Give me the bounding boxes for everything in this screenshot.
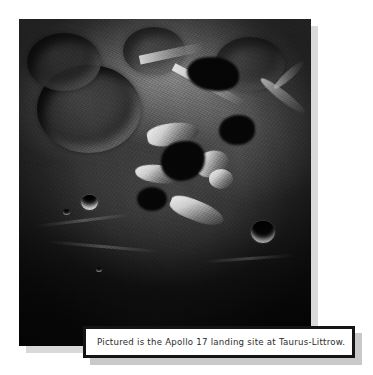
lunar-surface-photograph	[19, 19, 311, 346]
photo-caption-box: Pictured is the Apollo 17 landing site a…	[83, 326, 355, 358]
photo-vignette	[19, 19, 311, 346]
photo-caption-text: Pictured is the Apollo 17 landing site a…	[86, 337, 345, 347]
page-root: Pictured is the Apollo 17 landing site a…	[0, 0, 373, 375]
photo-canvas	[19, 19, 311, 346]
